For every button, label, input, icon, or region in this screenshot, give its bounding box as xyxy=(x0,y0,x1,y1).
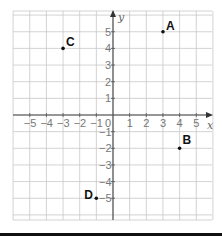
y-tick-label: 5 xyxy=(105,26,111,38)
point-label: B xyxy=(183,133,192,147)
x-tick-label: 2 xyxy=(143,117,149,129)
x-tick-label: −5 xyxy=(24,117,37,129)
y-tick-label: −4 xyxy=(99,176,112,188)
x-tick-label: −2 xyxy=(74,117,87,129)
y-tick-label: −5 xyxy=(99,192,112,204)
x-tick-label: 3 xyxy=(160,117,166,129)
bottom-divider xyxy=(0,233,222,236)
points: ABCD xyxy=(61,19,191,203)
y-tick-label: −3 xyxy=(99,159,112,171)
y-tick-label: 3 xyxy=(105,59,111,71)
x-tick-label: 1 xyxy=(127,117,133,129)
x-tick-label: −4 xyxy=(40,117,53,129)
point-label: A xyxy=(166,19,175,33)
y-tick-label: −2 xyxy=(99,142,112,154)
x-tick-label: 5 xyxy=(193,117,199,129)
point-marker-icon xyxy=(161,30,165,34)
x-axis-label: x xyxy=(207,119,214,132)
point-marker-icon xyxy=(61,47,65,51)
x-tick-label: 4 xyxy=(177,117,183,129)
point-marker-icon xyxy=(95,196,99,200)
y-tick-label: 4 xyxy=(105,42,111,54)
coordinate-plane: yx −5−4−3−2−11234554321−1−2−3−4−50 ABCD xyxy=(0,0,222,236)
origin-label: 0 xyxy=(105,117,111,129)
y-tick-label: 2 xyxy=(105,76,111,88)
x-axis-arrow-icon xyxy=(206,112,213,118)
y-axis-label: y xyxy=(117,11,125,24)
axes: yx xyxy=(13,10,214,220)
x-tick-label: −3 xyxy=(57,117,70,129)
point-marker-icon xyxy=(178,147,182,151)
point-label: C xyxy=(66,35,75,49)
point-label: D xyxy=(84,188,93,202)
y-tick-label: 1 xyxy=(105,92,111,104)
